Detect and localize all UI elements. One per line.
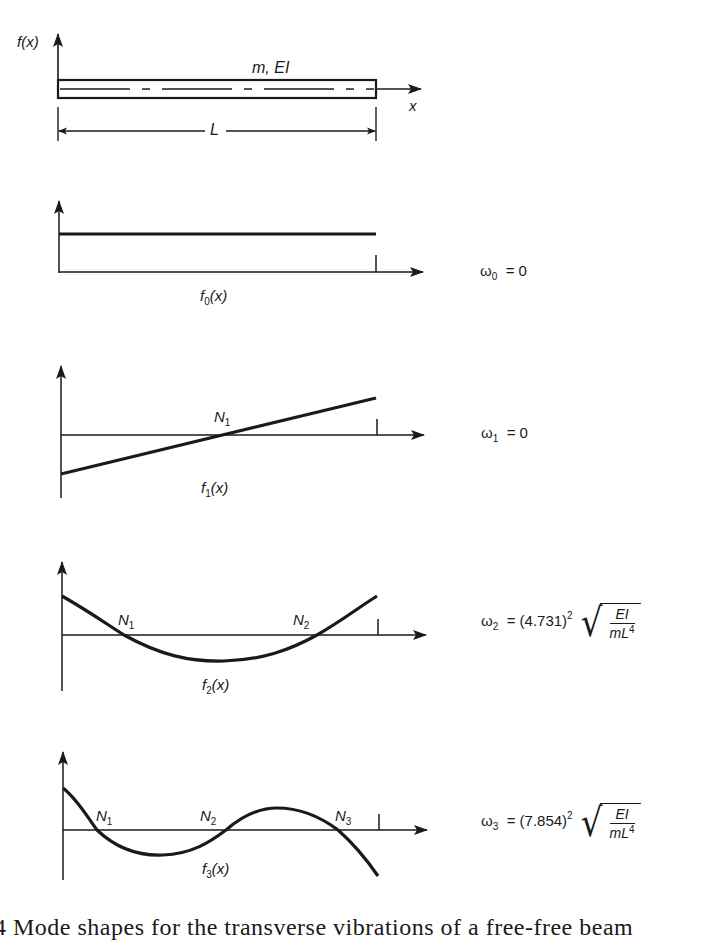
mode-0-curve-label: f0(x) xyxy=(200,287,227,304)
mode-3-sqrt-term: √EImL4 xyxy=(581,803,641,841)
mode-2-node-2-label: N2 xyxy=(293,611,309,628)
mode-1-node-1-label: N1 xyxy=(214,408,230,425)
mode-3-node-2-label: N2 xyxy=(200,807,216,824)
mode-3-frequency: ω3 = (7.854)2 √EImL4 xyxy=(481,803,641,841)
mode-2-sqrt-term: √EImL4 xyxy=(581,603,641,641)
mode-3-node-1-label: N1 xyxy=(96,807,112,824)
mode-0-frequency: ω0 = 0 xyxy=(480,262,527,279)
mode-3-curve-label: f3(x) xyxy=(202,860,229,877)
mode-3-plot xyxy=(63,752,427,880)
mode-2-frequency: ω2 = (4.731)2 √EImL4 xyxy=(481,603,641,641)
mode-2-node-1-label: N1 xyxy=(118,611,134,628)
mode-2-shape xyxy=(62,596,377,661)
figure-caption: 4 Mode shapes for the transverse vibrati… xyxy=(0,914,633,941)
fx-axis-label: f(x) xyxy=(17,33,39,50)
radical-sign-icon: √ xyxy=(581,602,603,641)
beam-schematic xyxy=(58,34,421,141)
x-axis-label: x xyxy=(409,97,417,114)
mode-2-plot xyxy=(62,562,426,691)
mode-2-curve-label: f2(x) xyxy=(202,676,229,693)
mode-0-plot xyxy=(59,201,423,273)
beam-properties-label: m, EI xyxy=(252,59,289,77)
radical-sign-icon: √ xyxy=(581,802,603,841)
mode-1-curve-label: f1(x) xyxy=(201,479,228,496)
mode-3-node-3-label: N3 xyxy=(335,807,351,824)
mode-1-plot xyxy=(61,366,424,498)
mode-1-frequency: ω1 = 0 xyxy=(481,424,528,441)
length-label: L xyxy=(210,121,219,139)
